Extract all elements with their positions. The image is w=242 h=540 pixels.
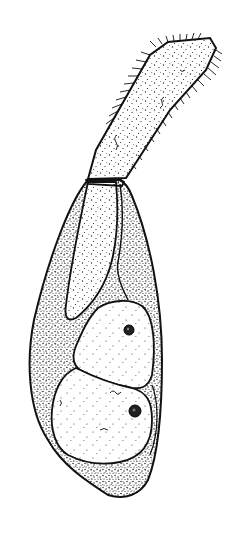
biological-illustration — [0, 0, 242, 540]
distal-segment — [88, 33, 222, 179]
upper-cell-nucleus — [124, 325, 134, 335]
drawing-canvas — [0, 0, 242, 540]
